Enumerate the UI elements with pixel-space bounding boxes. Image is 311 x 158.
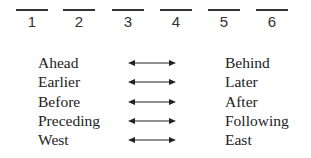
right-term: After	[225, 92, 258, 111]
slot-number: 3	[112, 14, 144, 30]
right-term: Behind	[225, 53, 270, 72]
slot-number: 4	[160, 14, 192, 30]
slot-1: 1	[16, 9, 48, 30]
blank-line	[256, 9, 288, 11]
blank-line	[16, 9, 48, 11]
blank-line	[63, 9, 95, 11]
slot-number: 2	[63, 14, 95, 30]
slot-number: 5	[208, 14, 240, 30]
pair-row: Earlier Later	[0, 72, 311, 91]
pair-row: Before After	[0, 92, 311, 111]
left-term: Before	[38, 92, 80, 111]
numbered-slots: 1 2 3 4 5 6	[0, 0, 311, 40]
pair-row: Ahead Behind	[0, 53, 311, 72]
slot-6: 6	[256, 9, 288, 30]
right-term: Following	[225, 111, 289, 130]
left-term: Earlier	[38, 72, 80, 91]
slot-3: 3	[112, 9, 144, 30]
slot-4: 4	[160, 9, 192, 30]
slot-number: 1	[16, 14, 48, 30]
left-term: Preceding	[38, 111, 100, 130]
left-term: Ahead	[38, 53, 78, 72]
right-term: Later	[225, 72, 258, 91]
slot-number: 6	[256, 14, 288, 30]
left-term: West	[38, 130, 69, 149]
opposite-pairs-list: Ahead Behind Earlier Later Before After …	[0, 53, 311, 149]
pair-row: Preceding Following	[0, 111, 311, 130]
blank-line	[208, 9, 240, 11]
pair-row: West East	[0, 130, 311, 149]
slot-2: 2	[63, 9, 95, 30]
double-headed-arrow-icon	[128, 116, 176, 126]
double-headed-arrow-icon	[128, 135, 176, 145]
double-headed-arrow-icon	[128, 97, 176, 107]
double-headed-arrow-icon	[128, 77, 176, 87]
right-term: East	[225, 130, 252, 149]
slot-5: 5	[208, 9, 240, 30]
blank-line	[112, 9, 144, 11]
double-headed-arrow-icon	[128, 58, 176, 68]
blank-line	[160, 9, 192, 11]
